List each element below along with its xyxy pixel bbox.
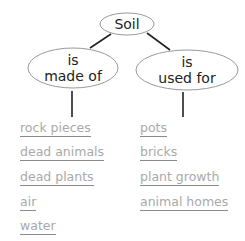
list-item: dead plants [20, 169, 94, 186]
list-item: bricks [140, 144, 177, 161]
branch-right-line2: used for [158, 70, 215, 86]
list-item: animal homes [140, 194, 228, 211]
branch-node-used-for: is used for [136, 50, 238, 90]
root-node-label: Soil [114, 16, 139, 32]
branch-right-line1: is [181, 54, 192, 70]
branch-node-made-of: is made of [28, 48, 118, 88]
list-item: pots [140, 120, 167, 137]
root-node: Soil [100, 13, 154, 35]
list-item: air [20, 194, 36, 211]
list-item: plant growth [140, 169, 219, 186]
list-item: water [20, 218, 56, 235]
branch-left-line1: is [67, 52, 78, 68]
list-item: dead animals [20, 144, 104, 161]
list-item: rock pieces [20, 120, 91, 137]
connector-root-right [147, 33, 170, 50]
connector-root-left [90, 34, 111, 48]
branch-left-line2: made of [44, 68, 102, 84]
